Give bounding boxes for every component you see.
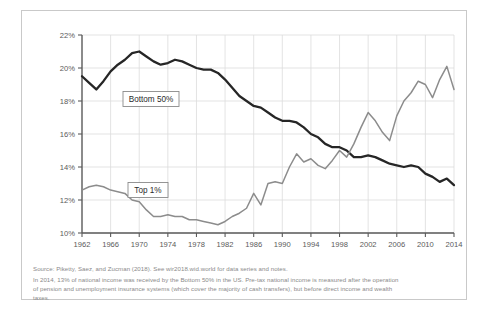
y-tick-label: 16% (60, 130, 75, 139)
y-axis-ticks-group: 10%12%14%16%18%20%22% (60, 31, 82, 238)
footnote-body-line-1: In 2014, 13% of national income was rece… (33, 275, 459, 284)
y-tick-label: 14% (60, 163, 75, 172)
chart-plot-area: 10%12%14%16%18%20%22% 196219661970197419… (22, 11, 468, 261)
legend-annotation-top-1: Top 1% (128, 183, 168, 198)
x-tick-label: 1978 (188, 240, 205, 249)
chart-card: 10%12%14%16%18%20%22% 196219661970197419… (21, 10, 467, 300)
x-tick-label: 1990 (274, 240, 291, 249)
y-tick-label: 10% (60, 229, 75, 238)
x-tick-label: 1998 (331, 240, 348, 249)
legend-annotation-label: Top 1% (134, 186, 161, 195)
x-axis-ticks-group: 1962196619701974197819821986199019941998… (74, 233, 463, 249)
y-tick-label: 12% (60, 196, 75, 205)
y-tick-label: 18% (60, 97, 75, 106)
legend-annotation-bottom-50: Bottom 50% (123, 92, 179, 107)
x-tick-label: 2002 (360, 240, 377, 249)
series-annotations-group: Bottom 50%Top 1% (123, 92, 179, 198)
x-tick-label: 1966 (102, 240, 119, 249)
x-tick-label: 1982 (217, 240, 234, 249)
footnote-body-line-3: taxes. (33, 293, 459, 302)
footnote-source: Source: Piketty, Saez, and Zucman (2018)… (33, 264, 459, 273)
x-tick-label: 2006 (388, 240, 405, 249)
series-line-bottom-50 (82, 52, 454, 186)
chart-footnotes: Source: Piketty, Saez, and Zucman (2018)… (22, 261, 468, 300)
y-tick-label: 22% (60, 31, 75, 40)
y-tick-label: 20% (60, 64, 75, 73)
x-tick-label: 1974 (159, 240, 176, 249)
x-tick-label: 1994 (302, 240, 319, 249)
series-line-top-1 (82, 66, 454, 224)
data-series-group (82, 52, 454, 225)
gridlines-group (82, 35, 454, 233)
x-tick-label: 1962 (74, 240, 91, 249)
x-tick-label: 1986 (245, 240, 262, 249)
footnote-body-line-2: of pension and unemployment insurance sy… (33, 284, 459, 293)
x-tick-label: 2014 (446, 240, 463, 249)
x-tick-label: 1970 (131, 240, 148, 249)
legend-annotation-label: Bottom 50% (129, 95, 174, 104)
x-tick-label: 2010 (417, 240, 434, 249)
footnote-body: In 2014, 13% of national income was rece… (33, 275, 459, 302)
income-share-line-chart: 10%12%14%16%18%20%22% 196219661970197419… (22, 11, 468, 261)
